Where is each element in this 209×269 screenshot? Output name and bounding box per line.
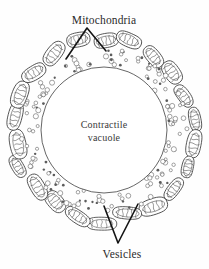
vesicle — [72, 204, 76, 208]
vesicle — [126, 193, 131, 198]
vesicle — [178, 104, 181, 107]
vesicle — [158, 68, 161, 71]
vesicle — [181, 116, 186, 121]
vesicle — [185, 127, 189, 131]
vesicle — [168, 114, 173, 119]
vesicle — [140, 56, 143, 59]
vesicle — [173, 116, 178, 121]
vesicle — [119, 64, 122, 67]
vesicle — [155, 176, 158, 179]
vesicle — [171, 147, 176, 152]
vesicle — [107, 49, 110, 52]
vesicle — [110, 54, 113, 57]
vesicle — [125, 59, 128, 62]
vesicle — [153, 64, 157, 68]
vesicle — [64, 65, 66, 67]
vesicle — [169, 169, 172, 172]
vesicle — [25, 111, 28, 114]
vesicle — [101, 199, 105, 203]
vesicle — [153, 80, 157, 84]
vesicle — [170, 103, 175, 108]
vesicle — [54, 183, 57, 186]
vesicle — [97, 194, 101, 198]
vesicle — [31, 156, 35, 160]
vesicle — [172, 122, 175, 125]
vesicle — [91, 201, 93, 203]
vesicle — [178, 132, 181, 135]
vesicle — [40, 85, 44, 89]
vesicle — [161, 78, 165, 82]
vesicle — [36, 125, 39, 128]
vesicle — [164, 87, 168, 91]
vesicle — [120, 49, 124, 53]
vesicle — [54, 77, 56, 79]
vesicle — [148, 194, 153, 199]
vesicle — [31, 130, 34, 133]
vesicle — [110, 204, 114, 208]
vesicles-label: Vesicles — [103, 248, 142, 260]
vesicle — [50, 188, 53, 191]
vesicle — [62, 184, 65, 187]
vesicle — [57, 178, 61, 182]
vesicle — [45, 181, 50, 186]
vesicle — [146, 184, 150, 188]
vesicle — [156, 169, 159, 172]
vesicle — [44, 186, 48, 190]
vesicle — [20, 137, 25, 142]
contractile-vacuole-label-line1: Contractile — [81, 119, 128, 130]
vesicle — [147, 67, 151, 71]
vesicle — [70, 55, 73, 58]
vesicle — [139, 202, 143, 206]
vesicle — [28, 164, 33, 169]
vesicle — [163, 73, 168, 78]
vesicle — [128, 206, 131, 209]
vesicle — [167, 141, 171, 145]
vesicle — [74, 61, 79, 66]
vesicle — [25, 144, 29, 148]
vesicle — [28, 128, 32, 132]
vesicle — [58, 191, 63, 196]
vesicle — [165, 99, 168, 102]
vesicle — [103, 54, 108, 59]
vesicle — [148, 176, 152, 180]
vesicle — [76, 190, 80, 194]
vesicle — [164, 149, 167, 152]
vesicle — [118, 193, 121, 196]
vesicle — [33, 114, 38, 119]
vesicle — [50, 80, 55, 85]
mitochondria-label: Mitochondria — [72, 14, 136, 26]
vesicle — [47, 172, 51, 176]
vesicle — [161, 173, 165, 177]
vesicle — [32, 105, 35, 108]
vesicle — [76, 202, 81, 207]
vesicle — [35, 147, 38, 150]
vesicle — [112, 63, 116, 67]
vesicle — [110, 58, 113, 61]
vesicle — [42, 102, 45, 105]
diagram-canvas: Mitochondria Vesicles Contractile vacuol… — [0, 0, 209, 269]
vesicle — [167, 145, 170, 148]
vesicle — [160, 184, 164, 188]
vesicle — [89, 63, 92, 66]
vesicle — [87, 207, 90, 210]
vesicle — [38, 81, 42, 85]
vesicle — [176, 91, 181, 96]
vesicle — [168, 119, 171, 122]
vesicle — [34, 101, 38, 105]
vesicle — [120, 197, 124, 201]
vesicle — [148, 62, 150, 64]
vesicle — [122, 200, 124, 202]
vesicle — [161, 159, 165, 163]
vesicle — [64, 201, 69, 206]
vesicle — [168, 108, 172, 112]
vesicle — [26, 101, 29, 104]
vesicle — [147, 77, 150, 80]
contractile-vacuole-diagram: Mitochondria Vesicles Contractile vacuol… — [0, 0, 209, 269]
vesicle — [45, 161, 48, 164]
vesicle — [43, 168, 45, 170]
vesicle — [166, 104, 170, 108]
contractile-vacuole-label-line2: vacuole — [88, 132, 121, 143]
vesicle — [136, 56, 140, 60]
vesicle — [159, 181, 162, 184]
vesicle — [166, 182, 168, 184]
